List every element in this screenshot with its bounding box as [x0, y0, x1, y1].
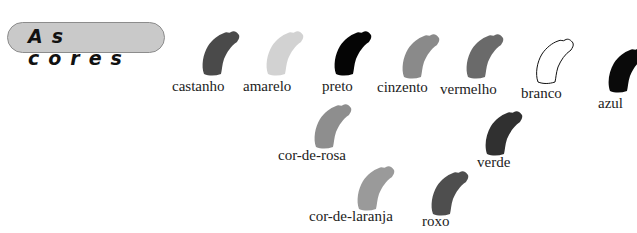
color-label: vermelho — [440, 81, 497, 98]
color-label: cor-de-rosa — [278, 147, 346, 164]
color-label: castanho — [172, 78, 224, 95]
color-label: cor-de-laranja — [309, 208, 393, 225]
section-title: As cores — [28, 25, 164, 69]
color-label: verde — [477, 154, 510, 171]
color-label: branco — [521, 85, 562, 102]
color-label: roxo — [422, 213, 450, 230]
color-label: amarelo — [243, 78, 291, 95]
color-label: preto — [322, 78, 353, 95]
color-label: cinzento — [377, 79, 428, 96]
section-title-banner: As cores — [7, 22, 165, 53]
color-label: azul — [598, 95, 623, 112]
